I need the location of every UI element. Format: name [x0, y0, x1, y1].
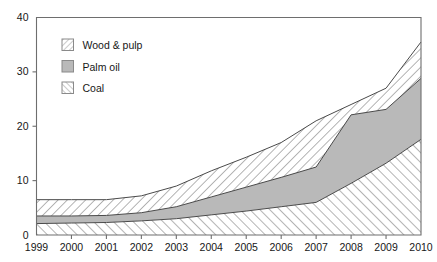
legend-item: Palm oil — [62, 61, 120, 73]
y-axis-tick-label: 0 — [23, 229, 29, 241]
legend-swatch-backslash-hatch-swatch — [62, 39, 74, 51]
legend-label: Palm oil — [83, 61, 120, 73]
x-axis-tick-label: 2009 — [374, 241, 398, 253]
legend-item: Wood & pulp — [62, 39, 143, 51]
legend-swatch-forward-slash-hatch-swatch — [62, 82, 74, 94]
y-axis-ticks — [33, 72, 37, 181]
x-axis-ticks — [71, 235, 386, 239]
legend-item: Coal — [62, 82, 104, 94]
legend-label: Wood & pulp — [83, 39, 143, 51]
chart-legend: Wood & pulpPalm oilCoal — [62, 39, 143, 94]
x-axis-tick-label: 2000 — [60, 241, 84, 253]
x-axis-tick-label: 2001 — [95, 241, 119, 253]
legend-swatch-solid-gray-swatch — [62, 61, 74, 73]
x-axis-tick-label: 2010 — [409, 241, 433, 253]
x-axis-labels: 1999200020012002200320042005200620072008… — [25, 241, 433, 253]
x-axis-tick-label: 1999 — [25, 241, 49, 253]
x-axis-tick-label: 2008 — [339, 241, 363, 253]
x-axis-tick-label: 2002 — [130, 241, 154, 253]
y-axis-tick-label: 40 — [17, 11, 29, 23]
y-axis-tick-label: 20 — [17, 120, 29, 132]
chart-canvas: 010203040 199920002001200220032004200520… — [0, 0, 437, 262]
stacked-area-chart: 010203040 199920002001200220032004200520… — [0, 0, 437, 262]
legend-label: Coal — [83, 82, 105, 94]
y-axis-labels: 010203040 — [17, 11, 29, 241]
x-axis-tick-label: 2003 — [165, 241, 189, 253]
x-axis-tick-label: 2007 — [304, 241, 328, 253]
x-axis-tick-label: 2006 — [270, 241, 294, 253]
x-axis-tick-label: 2005 — [235, 241, 259, 253]
y-axis-tick-label: 10 — [17, 174, 29, 186]
x-axis-tick-label: 2004 — [200, 241, 224, 253]
y-axis-tick-label: 30 — [17, 65, 29, 77]
